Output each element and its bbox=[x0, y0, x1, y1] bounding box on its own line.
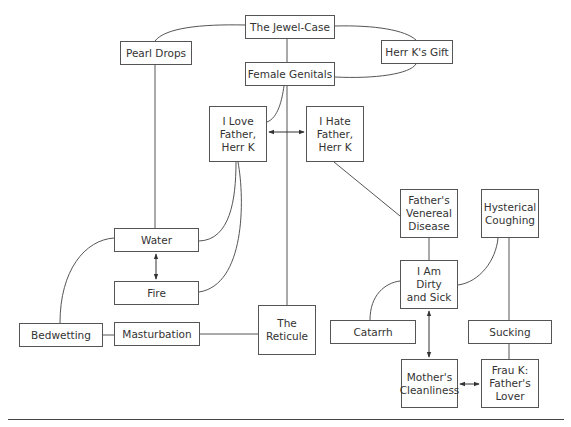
edge-hate-venereal bbox=[334, 162, 400, 216]
node-catarrh: Catarrh bbox=[330, 320, 416, 344]
node-water: Water bbox=[114, 228, 199, 252]
node-herr-k-gift: Herr K's Gift bbox=[381, 40, 453, 64]
edge-jewelcase-pearldrops bbox=[155, 25, 245, 41]
edge-genitals-love bbox=[267, 86, 284, 122]
node-dirty-sick: I Am Dirty and Sick bbox=[400, 260, 458, 309]
node-masturbation: Masturbation bbox=[114, 322, 200, 346]
node-sucking: Sucking bbox=[468, 320, 552, 344]
node-pearl-drops: Pearl Drops bbox=[120, 41, 192, 65]
node-reticule: The Reticule bbox=[258, 305, 316, 355]
node-frau-k: Frau K: Father's Lover bbox=[481, 359, 539, 408]
node-hysterical-coughing: Hysterical Coughing bbox=[481, 189, 539, 238]
edge-coughing-dirty bbox=[458, 238, 498, 285]
edge-water-bedwetting bbox=[60, 238, 114, 323]
node-hate-father: I Hate Father, Herr K bbox=[306, 106, 364, 162]
edge-love-water bbox=[199, 162, 236, 241]
node-bedwetting: Bedwetting bbox=[19, 323, 103, 347]
edge-dirty-catarrh bbox=[370, 281, 400, 320]
node-mothers-cleanliness: Mother's Cleanliness bbox=[401, 359, 458, 408]
edge-genitals-gift bbox=[335, 64, 416, 77]
edge-jewelcase-gift bbox=[335, 26, 416, 40]
node-venereal-disease: Father's Venereal Disease bbox=[400, 189, 458, 238]
node-fire: Fire bbox=[114, 281, 199, 305]
node-jewel-case: The Jewel-Case bbox=[245, 15, 335, 39]
node-love-father: I Love Father, Herr K bbox=[209, 106, 267, 162]
node-female-genitals: Female Genitals bbox=[245, 62, 335, 86]
bottom-rule bbox=[8, 419, 564, 420]
